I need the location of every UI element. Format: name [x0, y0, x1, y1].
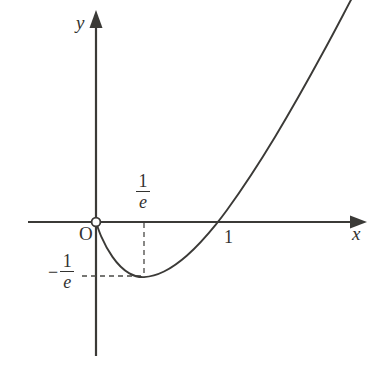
y-tick-label-minus-one-over-e: − 1 e	[48, 252, 74, 291]
fraction-denominator: e	[137, 192, 149, 211]
x-axis-label: x	[352, 224, 360, 243]
origin-label: O	[79, 224, 93, 243]
x-tick-label-one-over-e: 1 e	[136, 172, 150, 211]
minus-sign: −	[48, 263, 58, 281]
fraction-numerator: 1	[61, 252, 74, 271]
fraction-one-over-e-x: 1 e	[136, 172, 150, 211]
fraction-one-over-e-y: 1 e	[60, 252, 74, 291]
y-axis-label: y	[76, 13, 84, 32]
signed-fraction: − 1 e	[48, 252, 74, 291]
fraction-denominator: e	[61, 272, 73, 291]
x-tick-label-one: 1	[224, 228, 233, 246]
math-figure: y x O 1 1 e − 1 e	[0, 0, 387, 369]
fraction-numerator: 1	[137, 172, 150, 191]
graph-canvas	[0, 0, 387, 369]
open-circle-origin-marker	[92, 218, 101, 227]
y-axis-arrowhead	[90, 10, 103, 28]
